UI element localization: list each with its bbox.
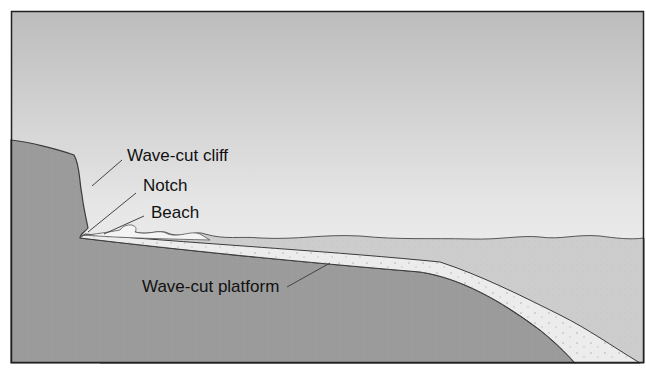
label-wave-cut-cliff: Wave-cut cliff [127,146,228,165]
label-wave-cut-platform: Wave-cut platform [142,277,279,296]
coastal-diagram: Wave-cut cliff Notch Beach Wave-cut plat… [0,0,646,377]
label-notch: Notch [143,176,187,195]
label-beach: Beach [151,203,199,222]
